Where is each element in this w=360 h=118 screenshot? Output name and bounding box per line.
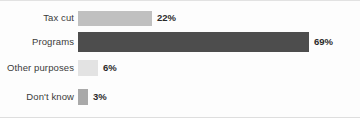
bar-row: Other purposes 6% <box>0 60 360 76</box>
bar-segment <box>78 32 309 52</box>
bar-segment <box>78 11 152 26</box>
category-label: Programs <box>0 37 74 47</box>
bar-row: Programs 69% <box>0 31 360 53</box>
bar-track: 22% <box>78 11 360 26</box>
bar-row: Don't know 3% <box>0 89 360 105</box>
bar-segment <box>78 60 98 76</box>
bar-value-label: 3% <box>93 92 107 102</box>
bar-value-label: 6% <box>103 63 117 73</box>
category-label: Don't know <box>0 92 74 102</box>
bar-track: 69% <box>78 32 360 52</box>
category-label: Tax cut <box>0 13 74 23</box>
bar-track: 6% <box>78 60 360 76</box>
bar-row: Tax cut 22% <box>0 10 360 26</box>
category-label: Other purposes <box>0 63 74 73</box>
bar-chart: Tax cut 22% Programs 69% Other purposes … <box>0 0 360 118</box>
bar-track: 3% <box>78 89 360 105</box>
bar-value-label: 69% <box>314 37 333 47</box>
bar-segment <box>78 89 88 105</box>
bar-value-label: 22% <box>157 13 176 23</box>
